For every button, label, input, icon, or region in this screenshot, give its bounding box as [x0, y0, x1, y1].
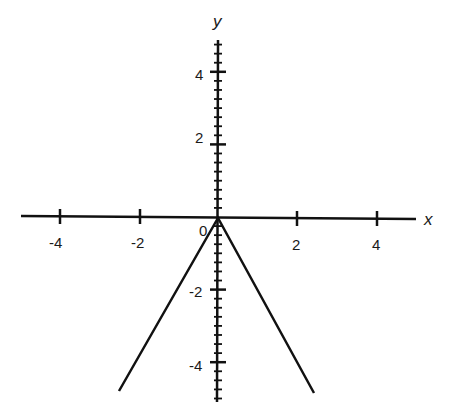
y-tick-label: 2: [195, 129, 203, 146]
x-tick-label: -4: [49, 234, 62, 251]
y-tick-label: -2: [189, 283, 202, 300]
x-tick-label: 2: [292, 236, 300, 253]
y-tick-label: 4: [195, 66, 203, 83]
y-tick-label: -4: [189, 357, 202, 374]
y-axis-label: y: [212, 12, 223, 31]
x-tick-label: 4: [372, 236, 380, 253]
graph: -4 -2 0 2 4 4 2 -2 -4 x y: [0, 0, 452, 416]
origin-label: 0: [199, 222, 207, 239]
x-axis-label: x: [423, 210, 433, 229]
x-tick-label: -2: [131, 234, 144, 251]
